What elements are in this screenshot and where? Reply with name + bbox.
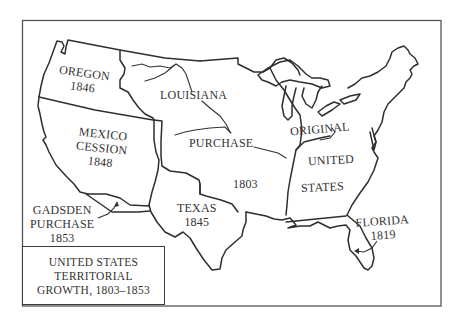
lake-huron bbox=[302, 86, 322, 108]
texas-name: TEXAS bbox=[177, 201, 217, 215]
mexico-cession-label: MEXICO CESSION 1848 bbox=[74, 124, 130, 171]
united-label: UNITED bbox=[308, 152, 355, 168]
gadsden-arrow bbox=[98, 203, 117, 218]
gadsden-arrow-head bbox=[114, 201, 119, 207]
gadsden-label: GADSDEN PURCHASE 1853 bbox=[30, 203, 94, 245]
florida-arrow-head bbox=[354, 248, 359, 254]
louisiana-label-top: LOUISIANA bbox=[160, 88, 227, 102]
florida-label: FLORIDA 1819 bbox=[355, 212, 410, 244]
gadsden-year: 1853 bbox=[30, 231, 94, 245]
atlantic-coast bbox=[347, 46, 418, 215]
lake-erie bbox=[318, 102, 340, 116]
gadsden-name: GADSDEN bbox=[30, 203, 94, 217]
louisiana-year: 1803 bbox=[233, 177, 258, 191]
title-line-3: GROWTH, 1803–1853 bbox=[37, 283, 150, 297]
texas-label: TEXAS 1845 bbox=[177, 201, 217, 229]
gadsden-purchase-name: PURCHASE bbox=[30, 217, 94, 231]
map-title-box: UNITED STATES TERRITORIAL GROWTH, 1803–1… bbox=[22, 246, 165, 305]
title-line-1: UNITED STATES bbox=[49, 255, 139, 269]
lake-ontario bbox=[340, 94, 360, 104]
southern-boundary bbox=[286, 216, 346, 222]
red-river bbox=[254, 147, 286, 158]
chesapeake-bay bbox=[370, 128, 376, 150]
title-line-2: TERRITORIAL bbox=[54, 269, 132, 283]
states-name: STATES bbox=[301, 179, 345, 195]
louisiana-west-boundary bbox=[154, 120, 238, 212]
united-name: UNITED bbox=[308, 152, 355, 168]
arkansas-river bbox=[175, 127, 231, 135]
mississippi-river bbox=[270, 68, 302, 215]
purchase-name: PURCHASE bbox=[189, 136, 253, 150]
states-label: STATES bbox=[301, 179, 345, 195]
gadsden-boundary bbox=[86, 194, 150, 212]
louisiana-name: LOUISIANA bbox=[160, 88, 227, 102]
louisiana-label-bottom: PURCHASE bbox=[189, 136, 253, 150]
texas-year: 1845 bbox=[177, 215, 217, 229]
